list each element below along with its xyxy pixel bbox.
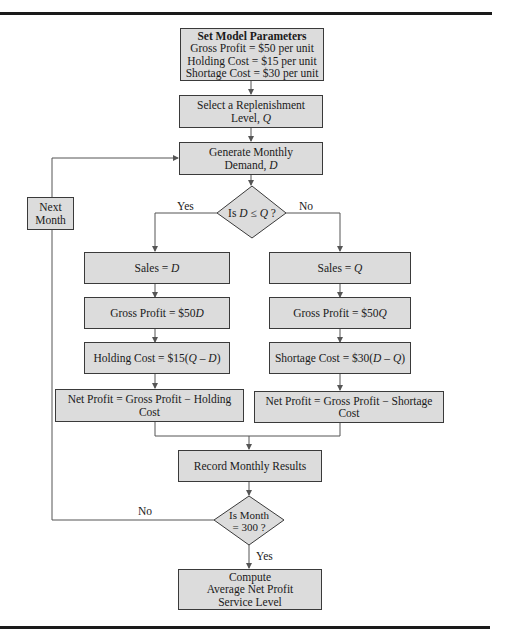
sales-d-box: Sales = D xyxy=(84,252,230,284)
decision-d-le-q-text: Is D ≤ Q ? xyxy=(228,207,276,220)
select-line2: Level, Q xyxy=(231,112,271,125)
select-replenishment-box: Select a Replenishment Level, Q xyxy=(179,95,323,128)
net-profit-right-box: Net Profit = Gross Profit − Shortage Cos… xyxy=(254,391,444,423)
generate-line2: Demand, D xyxy=(224,159,277,172)
edge-label-no-right: No xyxy=(299,200,313,212)
gross-profit-d-box: Gross Profit = $50D xyxy=(84,297,230,329)
params-holding-cost: Holding Cost = $15 per unit xyxy=(187,55,316,68)
edge-label-yes-down: Yes xyxy=(256,550,273,562)
compute-results-box: Compute Average Net Profit Service Level xyxy=(178,569,322,610)
params-gross-profit: Gross Profit = $50 per unit xyxy=(190,42,314,55)
params-title: Set Model Parameters xyxy=(197,30,306,43)
net-profit-left-box: Net Profit = Gross Profit − Holding Cost xyxy=(55,389,244,422)
next-month-line2: Month xyxy=(35,214,66,227)
next-month-line1: Next xyxy=(39,201,61,214)
edge-label-no-loop: No xyxy=(138,505,152,517)
select-line1: Select a Replenishment xyxy=(197,99,305,112)
edge-label-yes-left: Yes xyxy=(177,200,194,212)
set-model-parameters-box: Set Model Parameters Gross Profit = $50 … xyxy=(180,28,324,81)
shortage-cost-box: Shortage Cost = $30(D – Q) xyxy=(269,342,411,374)
holding-cost-box: Holding Cost = $15(Q – D) xyxy=(84,342,230,374)
sales-q-box: Sales = Q xyxy=(269,252,411,284)
gross-profit-q-box: Gross Profit = $50Q xyxy=(269,297,411,329)
record-results-box: Record Monthly Results xyxy=(178,450,322,482)
generate-line1: Generate Monthly xyxy=(209,146,293,159)
params-shortage-cost: Shortage Cost = $30 per unit xyxy=(186,67,319,80)
next-month-box: Next Month xyxy=(27,197,74,230)
decision-month-text: Is Month = 300 ? xyxy=(229,509,269,533)
generate-demand-box: Generate Monthly Demand, D xyxy=(179,142,323,175)
